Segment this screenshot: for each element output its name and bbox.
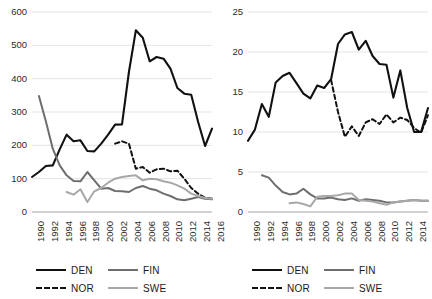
x-tick-label: 1994 [280, 221, 290, 242]
legend-swatch-fin-icon [108, 269, 138, 271]
x-tick-label: 1996 [294, 221, 304, 242]
x-tick-label: 1992 [50, 221, 60, 242]
y-tick-label: 300 [11, 107, 27, 117]
legend-swatch-fin-icon [324, 269, 354, 271]
plot-area-left [0, 0, 216, 258]
y-tick-label: 600 [11, 7, 27, 17]
x-tick-label: 2012 [188, 221, 198, 242]
legend-swatch-nor-icon [252, 287, 282, 289]
legend-label-nor: NOR [287, 283, 310, 294]
x-tick-label: 2008 [161, 221, 171, 242]
figure-two-panel-line-charts: 0100200300400500600199019921994199619982… [0, 0, 432, 299]
legend-swatch-den-icon [36, 269, 66, 271]
x-tick-label: 1990 [36, 221, 46, 242]
legend-label-swe: SWE [143, 283, 166, 294]
legend-swatch-den-icon [252, 269, 282, 271]
x-tick-label: 2014 [202, 221, 212, 242]
y-tick-label: 10 [232, 127, 243, 137]
x-tick-label: 2002 [119, 221, 129, 242]
series-line-den [248, 32, 428, 141]
legend-item-swe: SWE [108, 283, 180, 294]
legend-item-den: DEN [36, 265, 108, 276]
x-tick-label: 1996 [78, 221, 88, 242]
series-line-nor [331, 80, 428, 137]
x-tick-label: 2008 [377, 221, 387, 242]
x-tick-label: 2000 [105, 221, 115, 242]
plot-area-right [216, 0, 432, 258]
series-line-den [32, 30, 212, 177]
legend-label-swe: SWE [359, 283, 382, 294]
x-tick-label: 2012 [404, 221, 414, 242]
legend-label-den: DEN [287, 265, 309, 276]
y-tick-label: 5 [238, 167, 243, 177]
y-tick-label: 0 [238, 207, 243, 217]
x-tick-label: 2000 [321, 221, 331, 242]
x-tick-label: 2006 [363, 221, 373, 242]
y-tick-label: 0 [22, 207, 27, 217]
y-tick-label: 20 [232, 47, 243, 57]
legend-item-nor: NOR [252, 283, 324, 294]
legend-item-nor: NOR [36, 283, 108, 294]
x-tick-label: 2004 [349, 221, 359, 242]
legend-item-swe: SWE [324, 283, 396, 294]
y-tick-label: 25 [232, 7, 243, 17]
chart-panel-left: 0100200300400500600199019921994199619982… [0, 0, 216, 258]
y-tick-label: 15 [232, 87, 243, 97]
x-tick-label: 2010 [390, 221, 400, 242]
x-tick-label: 2014 [418, 221, 428, 242]
x-tick-label: 2006 [147, 221, 157, 242]
legend-item-den: DEN [252, 265, 324, 276]
series-line-fin [262, 175, 428, 202]
chart-panel-right: 0510152025199019921994199619982000200220… [216, 0, 432, 258]
legend-item-fin: FIN [324, 265, 396, 276]
legend-label-fin: FIN [359, 265, 376, 276]
x-tick-label: 1998 [91, 221, 101, 242]
legend-right: DEN FIN NOR SWE [216, 257, 432, 297]
legend-label-den: DEN [71, 265, 93, 276]
series-line-nor [115, 141, 212, 198]
x-tick-label: 2010 [174, 221, 184, 242]
x-tick-label: 1990 [252, 221, 262, 242]
legend-left: DEN FIN NOR SWE [0, 257, 216, 297]
y-tick-label: 200 [11, 140, 27, 150]
legend-swatch-swe-icon [324, 287, 354, 289]
y-tick-label: 100 [11, 174, 27, 184]
x-tick-label: 1994 [64, 221, 74, 242]
x-tick-label: 2002 [335, 221, 345, 242]
x-tick-label: 2004 [133, 221, 143, 242]
x-tick-label: 1992 [266, 221, 276, 242]
legend-label-fin: FIN [143, 265, 160, 276]
legend-swatch-nor-icon [36, 287, 66, 289]
legend-item-fin: FIN [108, 265, 180, 276]
legend-swatch-swe-icon [108, 287, 138, 289]
x-tick-label: 1998 [307, 221, 317, 242]
y-tick-label: 400 [11, 74, 27, 84]
y-tick-label: 500 [11, 40, 27, 50]
legend-label-nor: NOR [71, 283, 94, 294]
